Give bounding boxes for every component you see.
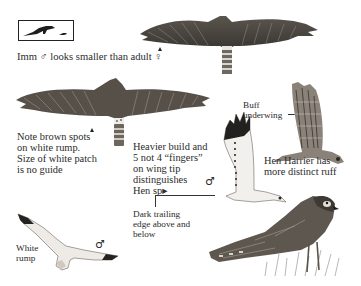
barred-tail [222, 50, 232, 74]
size-comparison-box [18, 20, 74, 41]
pointer-triangle-icon [158, 47, 162, 51]
caption-heavier-build: Heavier build and 5 not 4 “fingers” on w… [133, 141, 207, 196]
male-symbol-icon: ♂ [95, 238, 105, 251]
caption-white-rump: White rump [16, 243, 38, 263]
crow-silhouette-icon [19, 21, 73, 40]
caption-imm-male-smaller: Imm ♂ looks smaller than adult ♀ [17, 51, 162, 62]
caption-rump-note: Note brown spots on white rump. Size of … [17, 131, 97, 175]
leader-line [155, 195, 156, 207]
caption-hen-harrier-ruff: Hen Harrier has more distinct ruff [264, 155, 337, 177]
female-harrier-perched-illustration [205, 192, 355, 282]
caption-dark-trailing-edge: Dark trailing edge above and below [133, 209, 190, 239]
